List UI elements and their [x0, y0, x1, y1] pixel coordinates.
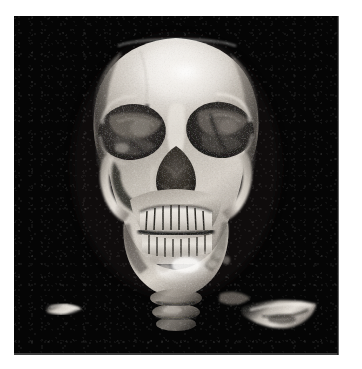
scan-edge-right: [337, 16, 339, 355]
figure-modality: CT: [0, 0, 1, 1]
chin-specular: [172, 257, 200, 273]
skull-volume-rendering: [14, 16, 338, 353]
figure-title: 3D CT Volume Rendering - Skull: [0, 0, 1, 1]
scan-edge-bottom: [14, 353, 338, 355]
figure-view: Anterior (frontal) view: [0, 0, 1, 1]
upper-dental-arch: [140, 205, 212, 230]
skull-render-svg-wrapper: [14, 16, 338, 353]
anatomy-label: Human skull reconstruction: [0, 0, 1, 1]
nasal-bridge: [167, 103, 185, 152]
figure-rendering: 3D volume rendering / surface shaded dis…: [0, 0, 1, 1]
ct-volume-render-canvas: [14, 16, 338, 353]
page-root: 3D CT Volume Rendering - Skull Anterior …: [0, 0, 362, 369]
cervical-spine: [150, 289, 202, 331]
